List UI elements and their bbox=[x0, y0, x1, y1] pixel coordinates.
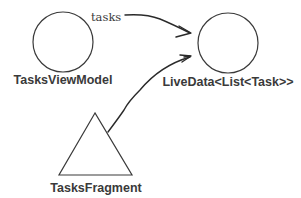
live-data-label: LiveData<List<Task>> bbox=[162, 75, 293, 89]
edge-tasks: tasks bbox=[91, 10, 191, 37]
edge-fragment-observes bbox=[108, 55, 191, 132]
edge-tasks-line bbox=[125, 15, 190, 33]
tasks-fragment-triangle bbox=[59, 113, 132, 175]
tasks-fragment-label: TasksFragment bbox=[50, 181, 142, 195]
tasks-view-model-label: TasksViewModel bbox=[14, 73, 113, 87]
live-data-circle bbox=[198, 13, 258, 73]
edge-tasks-label: tasks bbox=[91, 10, 121, 24]
node-live-data: LiveData<List<Task>> bbox=[162, 13, 293, 89]
edge-fragment-arrowhead-tick bbox=[184, 56, 190, 57]
edge-fragment-line bbox=[108, 57, 190, 132]
diagram-canvas: TasksViewModel LiveData<List<Task>> Task… bbox=[0, 0, 301, 198]
tasks-view-model-circle bbox=[33, 12, 93, 72]
node-tasks-fragment: TasksFragment bbox=[50, 113, 142, 195]
